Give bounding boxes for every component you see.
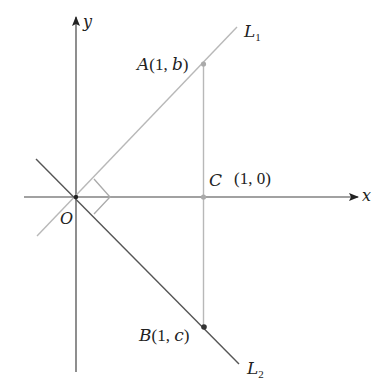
point-c — [201, 194, 206, 199]
origin-label: O — [60, 209, 73, 228]
origin-point — [74, 195, 78, 199]
point-b-label: B(1, c) — [138, 325, 189, 345]
y-axis-label: y — [82, 12, 93, 31]
point-a — [201, 61, 206, 66]
point-c-label: C — [209, 170, 222, 190]
point-a-label: A(1, b) — [135, 54, 189, 74]
line-l1-label: L1 — [243, 21, 261, 43]
perpendicular-lines-diagram: y x O L1 L2 A(1, b) C (1, 0) B(1, c) — [0, 0, 388, 386]
point-c-coords: (1, 0) — [234, 169, 271, 188]
point-b — [201, 324, 207, 330]
x-axis-label: x — [362, 186, 371, 205]
line-l2-label: L2 — [246, 358, 264, 380]
